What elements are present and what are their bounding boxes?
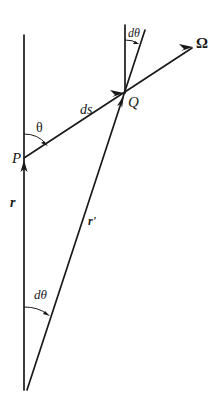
label-r: r: [10, 195, 16, 210]
label-theta: θ: [36, 120, 43, 135]
dtheta-bottom-arc: [24, 307, 47, 314]
label-p: P: [11, 150, 21, 166]
omega-arrowhead: [179, 44, 193, 51]
label-omega: Ω: [196, 35, 208, 51]
label-dtheta-top: dθ: [128, 26, 140, 40]
label-dtheta-bottom: dθ: [34, 287, 48, 302]
label-ds: ds: [80, 102, 93, 117]
r-prime-line: [27, 30, 145, 390]
ray-geometry-diagram: θ P ds Q dθ Ω r r' dθ: [0, 0, 218, 410]
ds-arrowhead: [110, 90, 124, 97]
label-q: Q: [128, 94, 139, 110]
label-r-prime: r': [88, 214, 97, 228]
